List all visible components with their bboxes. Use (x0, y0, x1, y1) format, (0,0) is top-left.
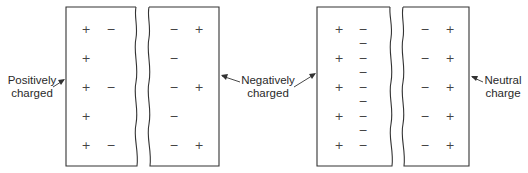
minus-charge: − (358, 23, 367, 36)
label-line: charged (236, 87, 300, 100)
minus-charge: − (169, 110, 178, 123)
plus-charge: + (445, 23, 454, 36)
minus-charge: − (420, 139, 429, 152)
minus-charge: − (358, 52, 367, 65)
minus-charge: − (169, 139, 178, 152)
plus-charge: + (81, 23, 90, 36)
plus-charge: + (194, 81, 203, 94)
plus-charge: + (81, 110, 90, 123)
plus-charge: + (81, 52, 90, 65)
minus-charge: − (169, 52, 178, 65)
plus-charge: + (81, 81, 90, 94)
minus-charge: − (106, 81, 115, 94)
minus-charge: − (358, 81, 367, 94)
label-line: Negatively (236, 74, 300, 87)
plus-charge: + (334, 139, 343, 152)
label-line: charged (4, 87, 60, 100)
minus-charge: − (420, 52, 429, 65)
minus-charge: − (358, 124, 367, 137)
plus-charge: + (445, 139, 454, 152)
negative-block-outline (148, 7, 219, 166)
plus-charge: + (334, 81, 343, 94)
label-positively-charged: Positively charged (4, 74, 60, 100)
plus-charge: + (334, 52, 343, 65)
label-neutral-charge: Neutral charge (480, 74, 526, 100)
plus-charge: + (194, 139, 203, 152)
label-line: charge (480, 87, 526, 100)
minus-charge: − (358, 37, 367, 50)
plus-charge: + (81, 139, 90, 152)
minus-charge: − (106, 139, 115, 152)
minus-charge: − (358, 139, 367, 152)
minus-charge: − (358, 110, 367, 123)
minus-charge: − (420, 81, 429, 94)
minus-charge: − (169, 23, 178, 36)
plus-charge: + (445, 81, 454, 94)
plus-charge: + (334, 23, 343, 36)
neutral-block-outline (402, 7, 469, 166)
minus-charge: − (106, 23, 115, 36)
minus-charge: − (420, 110, 429, 123)
minus-charge: − (169, 81, 178, 94)
minus-charge: − (420, 23, 429, 36)
plus-charge: + (334, 110, 343, 123)
label-line: Positively (4, 74, 60, 87)
plus-charge: + (445, 110, 454, 123)
plus-charge: + (445, 52, 454, 65)
plus-charge: + (194, 23, 203, 36)
minus-charge: − (358, 66, 367, 79)
positive-block-outline (66, 7, 137, 166)
minus-charge: − (358, 95, 367, 108)
label-line: Neutral (480, 74, 526, 87)
label-negatively-charged: Negatively charged (236, 74, 300, 100)
induced-block-outline (317, 7, 392, 166)
